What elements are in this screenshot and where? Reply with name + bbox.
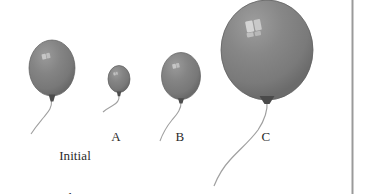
- label-balloon-c: C: [258, 130, 274, 144]
- balloon-c-body: [221, 0, 313, 100]
- balloon-a-string: [103, 96, 119, 112]
- label-initial-volume: Initial volume: [46, 121, 104, 194]
- label-balloon-a: A: [108, 130, 124, 144]
- balloon-initial-body: [29, 40, 75, 96]
- balloon-volume-figure: Initial volume A B C: [0, 0, 369, 194]
- balloon-initial-volume: [29, 40, 75, 134]
- label-initial-volume-line1: Initial: [46, 149, 104, 163]
- balloon-b: [160, 53, 201, 142]
- balloon-b-body: [162, 53, 201, 100]
- label-initial-volume-line2: volume: [46, 191, 104, 194]
- balloon-a: [103, 66, 130, 113]
- balloon-b-knot: [178, 98, 184, 103]
- balloon-initial-knot: [49, 95, 56, 102]
- balloon-a-body: [108, 66, 130, 93]
- label-balloon-b: B: [172, 130, 188, 144]
- balloon-a-knot: [117, 92, 121, 97]
- balloon-c: [214, 0, 313, 186]
